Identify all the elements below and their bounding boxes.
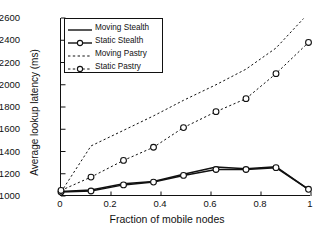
data-point-marker [273, 165, 279, 171]
y-axis-label: Average lookup latency (ms) [29, 28, 40, 198]
x-tick-label: 0.2 [90, 199, 130, 209]
data-point-marker [243, 96, 249, 102]
data-point-marker [213, 109, 219, 115]
y-tick-label: 1200 [0, 169, 20, 179]
data-point-marker [151, 179, 157, 185]
data-point-marker [306, 40, 312, 46]
x-tick-label: 0.8 [240, 199, 280, 209]
legend-item-static-stealth: Static Stealth [65, 35, 162, 47]
data-point-marker [306, 186, 312, 192]
legend-label: Moving Pastry [95, 48, 147, 60]
data-point-marker [273, 71, 279, 77]
legend-label: Moving Stealth [95, 22, 149, 34]
y-tick-label: 1600 [0, 125, 20, 135]
data-point-marker [243, 167, 249, 173]
data-point-marker [121, 158, 127, 164]
data-point-marker [88, 174, 94, 180]
legend-label: Static Pastry [95, 61, 141, 73]
chart-legend: Moving Stealth Static Stealth Moving Pas… [64, 18, 163, 73]
data-point-marker [121, 182, 127, 188]
legend-swatch-dotted-circle-icon [65, 61, 95, 73]
x-axis-label: Fraction of mobile nodes [0, 213, 334, 225]
legend-item-moving-pastry: Moving Pastry [65, 48, 162, 60]
y-tick-label: 2400 [0, 36, 20, 46]
data-point-marker [88, 188, 94, 194]
data-point-marker [151, 144, 157, 150]
legend-swatch-solid-icon [65, 22, 95, 34]
legend-item-static-pastry: Static Pastry [65, 61, 162, 73]
y-tick-label: 2200 [0, 58, 20, 68]
x-tick-label: 1 [290, 199, 330, 209]
legend-swatch-dotted-icon [65, 48, 95, 60]
legend-swatch-solid-circle-icon [65, 35, 95, 47]
y-tick-label: 1400 [0, 147, 20, 157]
legend-item-moving-stealth: Moving Stealth [65, 22, 162, 34]
legend-label: Static Stealth [95, 35, 143, 47]
y-tick-label: 1000 [0, 191, 20, 201]
x-tick-label: 0.6 [190, 199, 230, 209]
series-line [61, 167, 309, 192]
data-point-marker [181, 173, 187, 179]
data-point-marker [213, 167, 219, 173]
data-point-marker [181, 125, 187, 131]
y-tick-label: 2600 [0, 13, 20, 23]
data-point-marker [58, 188, 64, 194]
chart-figure: Average lookup latency (ms) 2600 2400 22… [0, 0, 334, 236]
y-tick-label: 1800 [0, 102, 20, 112]
x-tick-label: 0.4 [140, 199, 180, 209]
x-tick-label: 0 [40, 199, 80, 209]
y-tick-label: 2000 [0, 80, 20, 90]
